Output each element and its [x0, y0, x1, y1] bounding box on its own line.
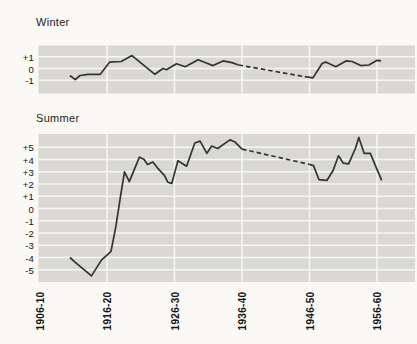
- winter-ytick-label: -1: [14, 75, 34, 86]
- summer-ytick-label: -2: [14, 228, 34, 239]
- winter-plot-panel: [39, 46, 416, 94]
- xtick-label-1956-60: 1956-60: [372, 292, 383, 331]
- summer-ytick-label: -1: [14, 215, 34, 226]
- xtick-label-1916-20: 1916-20: [102, 292, 113, 331]
- summer-ytick-label: +1: [14, 191, 34, 202]
- xtick-label-1926-30: 1926-30: [169, 292, 180, 331]
- summer-ytick-label: +4: [14, 154, 34, 165]
- summer-ytick-label: +2: [14, 179, 34, 190]
- summer-ytick-label: 0: [14, 203, 34, 214]
- summer-ytick-label: +5: [14, 142, 34, 153]
- summer-ytick-label: -5: [14, 264, 34, 275]
- xtick-label-1906-10: 1906-10: [34, 292, 45, 331]
- charts-canvas: [0, 0, 417, 344]
- winter-ytick-label: +1: [14, 51, 34, 62]
- summer-ytick-label: -3: [14, 240, 34, 251]
- climate-anomaly-figure: Winter Summer +10-1+5+4+3+2+10-1-2-3-4-5…: [0, 0, 417, 344]
- winter-ytick-label: 0: [14, 63, 34, 74]
- summer-ytick-label: +3: [14, 166, 34, 177]
- xtick-label-1946-50: 1946-50: [304, 292, 315, 331]
- xtick-label-1936-40: 1936-40: [237, 292, 248, 331]
- summer-ytick-label: -4: [14, 252, 34, 263]
